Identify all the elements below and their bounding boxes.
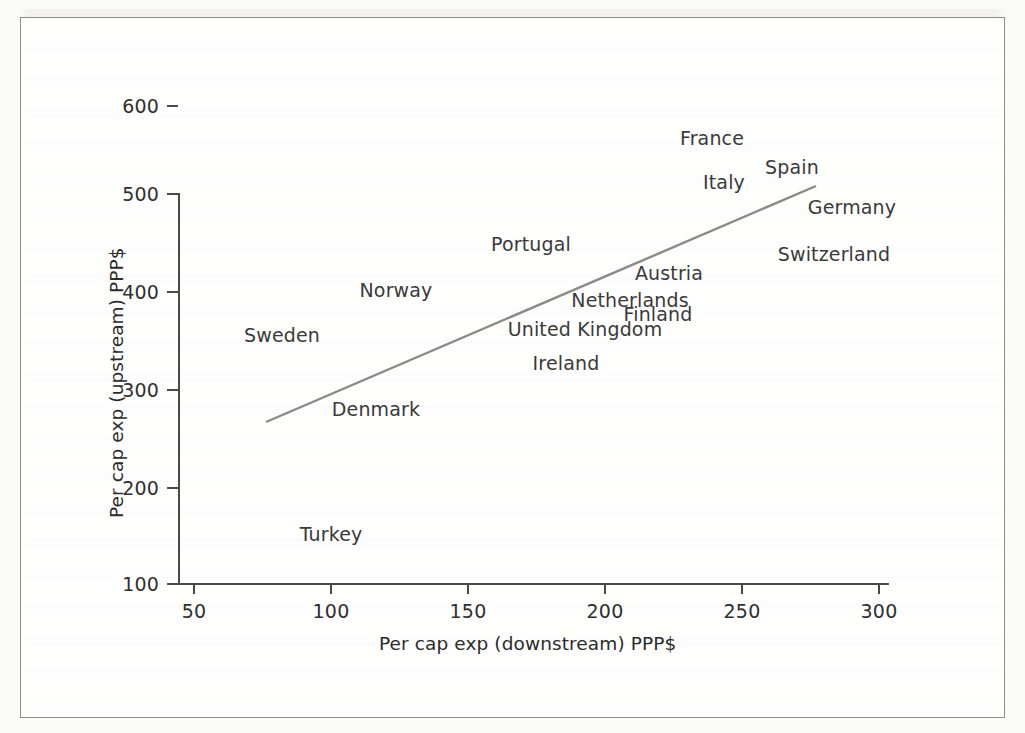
figure-frame: 600 500 400 300 200 100 50 100 150 200 2…: [20, 17, 1005, 718]
point-label-ireland: Ireland: [533, 352, 600, 374]
point-label-italy: Italy: [703, 171, 745, 193]
point-label-austria: Austria: [635, 262, 703, 284]
point-label-united-kingdom: United Kingdom: [508, 318, 663, 340]
point-label-spain: Spain: [765, 156, 819, 178]
plot-area: 600 500 400 300 200 100 50 100 150 200 2…: [21, 18, 1004, 717]
point-label-sweden: Sweden: [244, 324, 320, 346]
point-label-portugal: Portugal: [491, 233, 571, 255]
point-label-turkey: Turkey: [300, 523, 363, 545]
point-label-switzerland: Switzerland: [778, 243, 890, 265]
point-label-france: France: [680, 127, 744, 149]
point-label-denmark: Denmark: [332, 398, 420, 420]
point-label-norway: Norway: [360, 279, 433, 301]
trend-line: [21, 18, 1006, 719]
point-label-germany: Germany: [808, 196, 896, 218]
